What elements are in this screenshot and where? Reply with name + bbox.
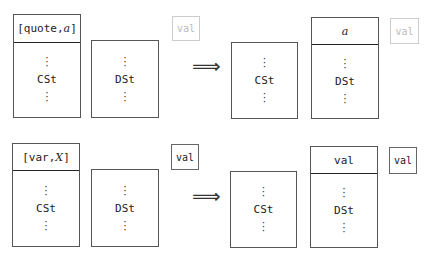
vertical-dots-icon: ··· — [261, 186, 266, 198]
frame-text: val — [334, 154, 354, 167]
stack-body: ··· DSt ··· — [92, 41, 158, 117]
frame-var: a — [342, 25, 349, 38]
vertical-dots-icon: ··· — [44, 91, 49, 103]
data-stack-top-frame: a — [312, 18, 378, 45]
vertical-dots-icon: ··· — [44, 56, 49, 68]
frame-suffix: ] — [63, 151, 70, 164]
row2-after-val-box: val — [389, 147, 417, 174]
row1-after-val-box: val — [390, 18, 419, 44]
stack-label: DSt — [334, 204, 354, 217]
frame-prefix: [quote, — [17, 22, 63, 35]
transition-arrow-icon: ⟹ — [192, 186, 221, 206]
frame-suffix: ] — [70, 22, 77, 35]
stack-body: ··· DSt ··· — [311, 173, 377, 247]
row2-after-data-stack: val ··· DSt ··· — [310, 146, 378, 248]
stack-label: CSt — [255, 74, 275, 87]
stack-body: ··· CSt ··· — [13, 170, 79, 246]
stack-label: DSt — [115, 202, 135, 215]
vertical-dots-icon: ··· — [43, 185, 48, 197]
row1-after-data-stack: a ··· DSt ··· — [311, 17, 379, 119]
vertical-dots-icon: ··· — [122, 220, 127, 232]
vertical-dots-icon: ··· — [262, 57, 267, 69]
row2-before-val-box: val — [171, 144, 199, 170]
stack-label: CSt — [36, 202, 56, 215]
row2-before-data-stack: ··· DSt ··· — [91, 169, 159, 247]
frame-prefix: [var, — [22, 151, 55, 164]
stack-body: ··· DSt ··· — [92, 170, 158, 246]
stack-label: DSt — [335, 75, 355, 88]
row1-before-control-stack: [quote,a] ··· CSt ··· — [13, 14, 81, 118]
vertical-dots-icon: ··· — [341, 187, 346, 199]
control-stack-top-frame: [var,X] — [13, 144, 79, 171]
transition-arrow-icon: ⟹ — [192, 56, 221, 76]
vertical-dots-icon: ··· — [122, 56, 127, 68]
vertical-dots-icon: ··· — [261, 221, 266, 233]
stack-body: ··· CSt ··· — [231, 172, 296, 247]
stack-label: CSt — [37, 73, 57, 86]
frame-var: X — [55, 151, 63, 164]
control-stack-top-frame: [quote,a] — [14, 15, 80, 43]
stack-body: ··· CSt ··· — [14, 42, 80, 117]
stack-body: ··· DSt ··· — [312, 44, 378, 118]
vertical-dots-icon: ··· — [122, 185, 127, 197]
stack-label: CSt — [254, 203, 274, 216]
vertical-dots-icon: ··· — [342, 58, 347, 70]
vertical-dots-icon: ··· — [43, 220, 48, 232]
vertical-dots-icon: ··· — [342, 93, 347, 105]
data-stack-top-frame: val — [311, 147, 377, 174]
stack-body: ··· CSt ··· — [232, 43, 297, 118]
stack-label: DSt — [115, 73, 135, 86]
vertical-dots-icon: ··· — [122, 91, 127, 103]
row2-before-control-stack: [var,X] ··· CSt ··· — [12, 143, 80, 247]
vertical-dots-icon: ··· — [341, 222, 346, 234]
row1-before-data-stack: ··· DSt ··· — [91, 40, 159, 118]
vertical-dots-icon: ··· — [262, 92, 267, 104]
row2-after-control-stack: ··· CSt ··· — [230, 171, 297, 248]
row1-before-val-box: val — [172, 16, 200, 41]
row1-after-control-stack: ··· CSt ··· — [231, 42, 298, 119]
